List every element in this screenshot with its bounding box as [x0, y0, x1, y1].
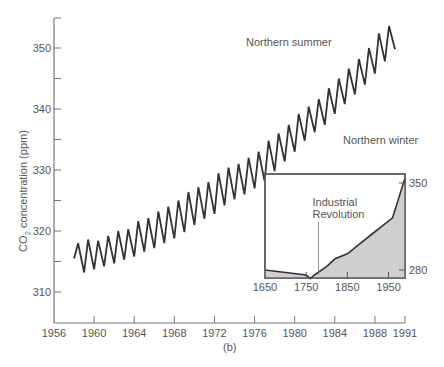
- x-tick-label: 1968: [162, 327, 186, 339]
- svg-text:Revolution: Revolution: [313, 208, 365, 220]
- x-tick-label: 1964: [122, 327, 146, 339]
- x-tick-label: 1984: [323, 327, 347, 339]
- inset-y-tick-label: 280: [409, 264, 427, 276]
- inset-y-tick-label: 350: [409, 177, 427, 189]
- y-axis-label: CO2 concentration (ppm): [17, 130, 32, 252]
- inset-x-tick-label: 1850: [335, 281, 359, 293]
- x-tick-label: 1972: [202, 327, 226, 339]
- y-tick-label: 310: [33, 286, 51, 298]
- x-tick-label: 1956: [42, 327, 66, 339]
- figure-caption: (b): [223, 341, 236, 353]
- x-tick-label: 1976: [242, 327, 266, 339]
- annotation-northern-winter: Northern winter: [343, 134, 419, 146]
- inset-x-tick-label: 1750: [294, 281, 318, 293]
- co2-chart: 3103203303403501956196019641968197219761…: [0, 0, 444, 367]
- y-tick-label: 340: [33, 103, 51, 115]
- x-tick-label: 1960: [82, 327, 106, 339]
- annotation-northern-summer: Northern summer: [246, 36, 332, 48]
- x-tick-label: 1980: [282, 327, 306, 339]
- y-tick-label: 320: [33, 225, 51, 237]
- inset-x-tick-label: 1650: [253, 281, 277, 293]
- inset-x-tick-label: 1950: [376, 281, 400, 293]
- y-tick-label: 330: [33, 164, 51, 176]
- x-tick-label: 1991: [393, 327, 417, 339]
- annotation-industrial-revolution: Industrial: [313, 196, 358, 208]
- y-tick-label: 350: [33, 42, 51, 54]
- x-tick-label: 1988: [363, 327, 387, 339]
- inset-chart: IndustrialRevolution16501750185019502803…: [253, 174, 428, 293]
